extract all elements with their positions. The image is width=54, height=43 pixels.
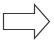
arrow-shape: [4, 5, 50, 39]
diagram-canvas: [0, 0, 54, 43]
right-arrow-icon: [0, 0, 54, 43]
